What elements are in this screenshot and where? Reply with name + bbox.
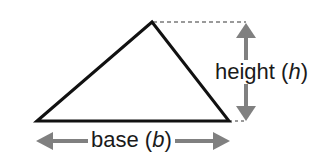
base-label: base (b) <box>88 128 175 152</box>
height-label-variable: h <box>288 59 300 84</box>
base-label-close: ) <box>164 127 171 152</box>
height-label-close: ) <box>301 59 308 84</box>
triangle <box>37 22 229 121</box>
height-label-word: height ( <box>215 59 288 84</box>
height-label: height (h) <box>214 60 309 84</box>
base-label-word: base ( <box>91 127 152 152</box>
base-label-variable: b <box>152 127 164 152</box>
